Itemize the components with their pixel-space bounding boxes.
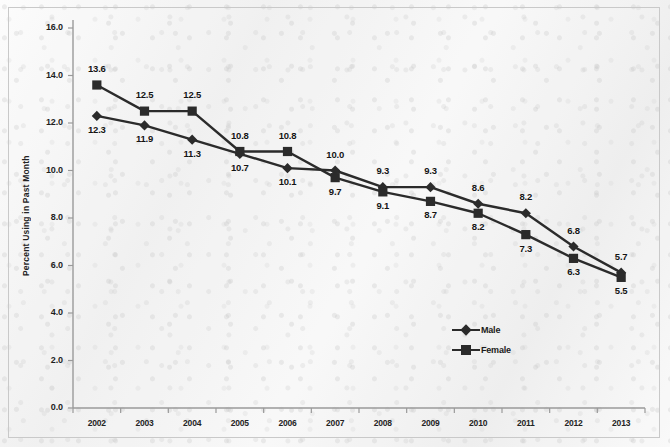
series-layer bbox=[92, 80, 627, 282]
x-tick-label: 2011 bbox=[504, 418, 548, 428]
x-tick-label: 2010 bbox=[456, 418, 500, 428]
data-point-value-label: 12.3 bbox=[77, 124, 117, 135]
data-point-value-label: 9.3 bbox=[411, 165, 451, 176]
data-point-marker[interactable] bbox=[378, 187, 387, 196]
data-point-value-label: 5.7 bbox=[601, 251, 641, 262]
legend-label-male: Male bbox=[480, 325, 500, 335]
data-point-value-label: 11.9 bbox=[125, 133, 165, 144]
data-point-marker[interactable] bbox=[92, 111, 102, 121]
data-point-value-label: 8.6 bbox=[458, 182, 498, 193]
data-point-value-label: 10.1 bbox=[268, 176, 308, 187]
data-point-value-label: 9.1 bbox=[363, 200, 403, 211]
female-series-marker-icon bbox=[452, 344, 480, 356]
data-point-marker[interactable] bbox=[235, 147, 244, 156]
x-tick-label: 2004 bbox=[170, 418, 214, 428]
data-point-value-label: 12.5 bbox=[172, 89, 212, 100]
y-tick-label: 10.0 bbox=[29, 165, 63, 175]
data-point-value-label: 10.8 bbox=[268, 130, 308, 141]
data-point-value-label: 6.3 bbox=[554, 266, 594, 277]
data-point-marker[interactable] bbox=[140, 107, 149, 116]
y-tick-label: 2.0 bbox=[29, 355, 63, 365]
data-point-marker[interactable] bbox=[521, 230, 530, 239]
chart-legend: Male Female bbox=[452, 320, 562, 360]
y-tick-label: 8.0 bbox=[29, 212, 63, 222]
y-tick-label: 14.0 bbox=[29, 70, 63, 80]
x-tick-label: 2005 bbox=[218, 418, 262, 428]
x-tick-label: 2003 bbox=[123, 418, 167, 428]
data-point-marker[interactable] bbox=[139, 120, 149, 130]
x-tick-label: 2002 bbox=[75, 418, 119, 428]
data-point-marker[interactable] bbox=[425, 182, 435, 192]
x-tick-label: 2008 bbox=[361, 418, 405, 428]
data-point-value-label: 8.7 bbox=[411, 209, 451, 220]
data-point-value-label: 10.7 bbox=[220, 162, 260, 173]
data-point-value-label: 13.6 bbox=[77, 63, 117, 74]
data-point-value-label: 11.3 bbox=[172, 148, 212, 159]
data-point-marker[interactable] bbox=[282, 163, 292, 173]
data-point-marker[interactable] bbox=[187, 135, 197, 145]
data-point-value-label: 7.3 bbox=[506, 243, 546, 254]
legend-item-female[interactable]: Female bbox=[452, 340, 562, 360]
data-point-marker[interactable] bbox=[617, 273, 626, 282]
y-tick-label: 0.0 bbox=[29, 402, 63, 412]
chart-page: Percent Using in Past Month 0.02.04.06.0… bbox=[0, 0, 670, 447]
legend-label-female: Female bbox=[480, 345, 511, 355]
data-point-value-label: 8.2 bbox=[458, 221, 498, 232]
y-tick-label: 16.0 bbox=[29, 22, 63, 32]
data-point-value-label: 6.8 bbox=[554, 225, 594, 236]
data-point-marker[interactable] bbox=[473, 199, 483, 209]
x-tick-label: 2013 bbox=[599, 418, 643, 428]
y-tick-label: 12.0 bbox=[29, 117, 63, 127]
data-point-marker[interactable] bbox=[283, 147, 292, 156]
x-tick-label: 2007 bbox=[313, 418, 357, 428]
x-tick-label: 2009 bbox=[409, 418, 453, 428]
x-tick-label: 2006 bbox=[266, 418, 310, 428]
data-point-marker[interactable] bbox=[474, 209, 483, 218]
y-tick-label: 4.0 bbox=[29, 307, 63, 317]
male-series-marker-icon bbox=[452, 324, 480, 336]
data-point-value-label: 8.2 bbox=[506, 191, 546, 202]
data-point-value-label: 9.7 bbox=[315, 186, 355, 197]
data-point-value-label: 10.8 bbox=[220, 130, 260, 141]
data-point-marker[interactable] bbox=[426, 197, 435, 206]
data-point-marker[interactable] bbox=[92, 80, 101, 89]
data-point-marker[interactable] bbox=[569, 254, 578, 263]
data-point-value-label: 9.3 bbox=[363, 165, 403, 176]
y-tick-label: 6.0 bbox=[29, 260, 63, 270]
data-point-marker[interactable] bbox=[188, 107, 197, 116]
data-point-value-label: 12.5 bbox=[125, 89, 165, 100]
legend-item-male[interactable]: Male bbox=[452, 320, 562, 340]
x-tick-label: 2012 bbox=[552, 418, 596, 428]
data-point-marker[interactable] bbox=[331, 173, 340, 182]
data-point-value-label: 5.5 bbox=[601, 285, 641, 296]
data-point-value-label: 10.0 bbox=[315, 149, 355, 160]
